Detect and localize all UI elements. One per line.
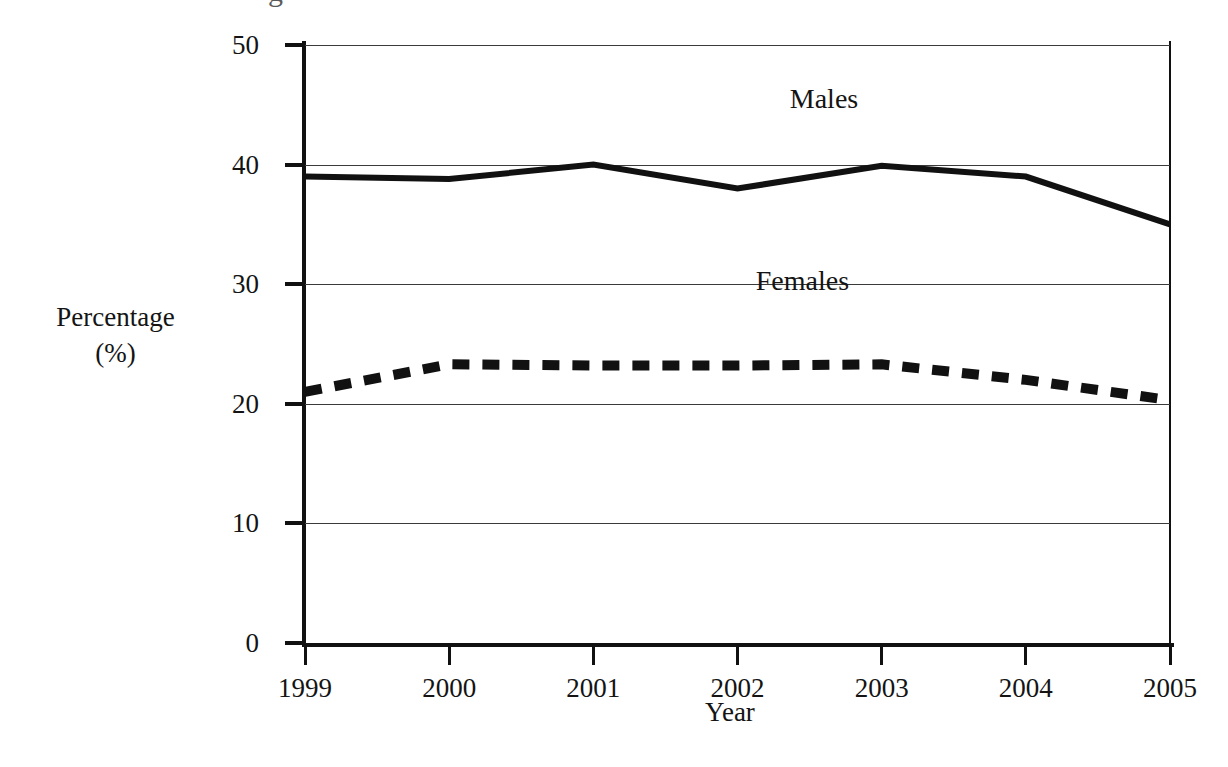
x-tick-label-2001: 2001 <box>566 673 620 704</box>
x-tick-label-2000: 2000 <box>422 673 476 704</box>
series-line-females <box>305 364 1170 400</box>
x-tick-label-2004: 2004 <box>999 673 1053 704</box>
y-axis-title: Percentage (%) <box>8 300 223 371</box>
plot-area: 01020304050 1999200020012002200320042005… <box>305 45 1170 643</box>
x-tick-2002 <box>736 643 739 665</box>
cropped-title-fragment: g <box>268 0 388 8</box>
x-tick-2003 <box>880 643 883 665</box>
x-tick-2004 <box>1024 643 1027 665</box>
y-tick-30: 30 <box>285 282 305 286</box>
x-tick-2001 <box>592 643 595 665</box>
y-tick-10: 10 <box>285 521 305 525</box>
y-axis-title-line2: (%) <box>8 336 223 372</box>
x-tick-label-2005: 2005 <box>1143 673 1197 704</box>
y-tick-label-30: 30 <box>232 269 259 300</box>
x-tick-label-2002: 2002 <box>711 673 765 704</box>
y-tick-20: 20 <box>285 402 305 406</box>
series-label-males: Males <box>790 83 858 115</box>
y-axis-title-line1: Percentage <box>56 302 174 332</box>
chart-page: g Percentage (%) Year 01020304050 199920… <box>0 0 1228 767</box>
x-tick-2000 <box>448 643 451 665</box>
x-tick-2005 <box>1169 643 1172 665</box>
y-tick-label-50: 50 <box>232 30 259 61</box>
x-tick-1999 <box>304 643 307 665</box>
x-tick-label-1999: 1999 <box>278 673 332 704</box>
y-tick-50: 50 <box>285 43 305 47</box>
y-tick-label-40: 40 <box>232 149 259 180</box>
y-tick-0: 0 <box>285 641 305 645</box>
series-label-females: Females <box>756 265 849 297</box>
y-tick-label-20: 20 <box>232 388 259 419</box>
y-tick-label-10: 10 <box>232 508 259 539</box>
y-tick-40: 40 <box>285 163 305 167</box>
series-lines <box>305 45 1170 643</box>
y-tick-label-0: 0 <box>246 628 260 659</box>
x-tick-label-2003: 2003 <box>855 673 909 704</box>
series-line-males <box>305 165 1170 225</box>
